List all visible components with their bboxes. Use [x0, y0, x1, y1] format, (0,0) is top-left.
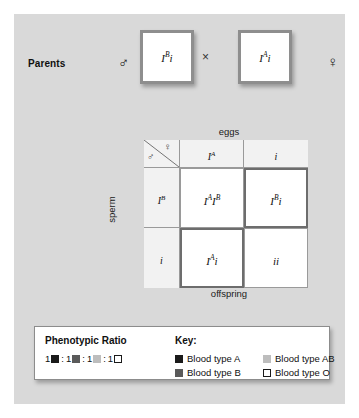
offspring-axis-label: offspring [150, 288, 308, 299]
key-swatch-ab [263, 355, 271, 363]
corner-female-symbol-icon: ♀ [164, 141, 172, 152]
parent-box-female: IAi [238, 30, 292, 84]
phenotypic-ratio-section: Phenotypic Ratio 1 : 1 : 1 : 1 [45, 335, 163, 364]
male-symbol-icon: ♂ [118, 55, 129, 70]
key-item-blood-type-ab: Blood type AB [263, 353, 353, 364]
cross-symbol: × [202, 50, 209, 64]
punnett-offspring-cell: IAi [180, 228, 244, 288]
egg-header-cell-1: IA [180, 140, 244, 168]
key-item-blood-type-a: Blood type A [175, 353, 263, 364]
key-label: Blood type A [187, 353, 240, 364]
parents-row: Parents ♂ IBi × IAi ♀ [14, 14, 345, 114]
ratio-separator: : [82, 353, 85, 364]
key-swatch-a [175, 355, 183, 363]
sperm-axis-label: sperm [106, 196, 117, 222]
corner-male-symbol-icon: ♂ [147, 151, 155, 162]
parent-female-genotype: IAi [241, 50, 289, 64]
punnett-square-block: eggs sperm offspring ♀ ♂ IA i IB i IAIB … [116, 126, 308, 302]
egg-header-cell-2: i [244, 140, 308, 168]
key-label: Blood type B [187, 367, 241, 378]
eggs-axis-label: eggs [150, 126, 308, 137]
punnett-grid: ♀ ♂ IA i IB i IAIB IBi IAi ii [144, 140, 308, 288]
ratio-swatch-ab [93, 355, 101, 363]
ratio-swatch-a [51, 355, 59, 363]
key-title: Key: [175, 335, 325, 346]
key-label: Blood type AB [275, 353, 335, 364]
punnett-offspring-cell: IAIB [180, 168, 244, 228]
ratio-count-3: 1 [87, 353, 92, 364]
parent-box-male: IBi [140, 30, 194, 84]
punnett-corner-cell: ♀ ♂ [144, 140, 180, 168]
phenotypic-ratio-title: Phenotypic Ratio [45, 335, 163, 346]
key-label: Blood type O [275, 367, 330, 378]
parents-label: Parents [28, 58, 65, 69]
ratio-separator: : [103, 353, 106, 364]
key-swatch-b [175, 369, 183, 377]
female-symbol-icon: ♀ [327, 54, 338, 69]
key-item-blood-type-o: Blood type O [263, 367, 353, 378]
parent-male-genotype: IBi [143, 50, 191, 64]
legend-box: Phenotypic Ratio 1 : 1 : 1 : 1 Key: Bloo [34, 326, 330, 380]
figure-panel: Parents ♂ IBi × IAi ♀ eggs sperm offspri… [14, 14, 345, 404]
ratio-separator: : [61, 353, 64, 364]
ratio-count-4: 1 [108, 353, 113, 364]
ratio-swatch-b [72, 355, 80, 363]
ratio-count-2: 1 [66, 353, 71, 364]
key-item-blood-type-b: Blood type B [175, 367, 263, 378]
phenotypic-ratio-values: 1 : 1 : 1 : 1 [45, 353, 163, 364]
punnett-offspring-cell: IBi [244, 168, 308, 228]
ratio-count-1: 1 [45, 353, 50, 364]
sperm-header-cell-2: i [144, 228, 180, 288]
punnett-offspring-cell: ii [244, 228, 308, 288]
key-items: Blood type A Blood type AB Blood type B … [175, 353, 325, 378]
ratio-swatch-o [114, 355, 122, 363]
key-swatch-o [263, 369, 271, 377]
sperm-header-cell-1: IB [144, 168, 180, 228]
key-section: Key: Blood type A Blood type AB Blood ty… [175, 335, 325, 378]
